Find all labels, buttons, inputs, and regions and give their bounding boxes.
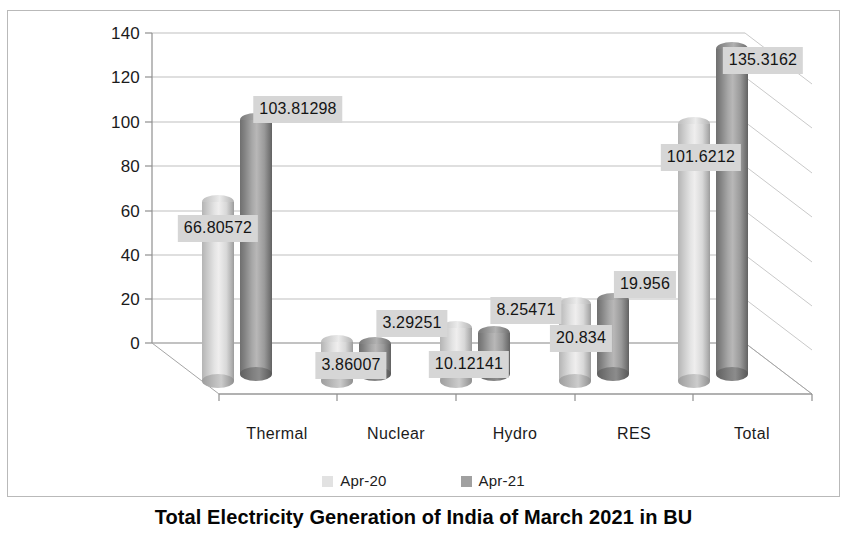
y-tick-140: 140: [96, 25, 140, 42]
bar-foot: [716, 367, 748, 381]
y-tick-80: 80: [96, 158, 140, 175]
x-tick-total: Total: [734, 425, 770, 443]
x-tick-thermal: Thermal: [246, 425, 307, 443]
legend-label-apr-21: Apr-21: [479, 473, 525, 489]
bar-body: [716, 49, 748, 374]
data-label-thermal-apr-21: 103.81298: [253, 96, 342, 123]
y-tick-120: 120: [96, 69, 140, 86]
data-label-thermal-apr-20: 66.80572: [178, 215, 258, 242]
y-tick-0: 0: [96, 335, 140, 352]
legend-item-apr-20[interactable]: Apr-20: [322, 473, 386, 489]
data-label-nuclear-apr-20: 3.86007: [315, 352, 386, 379]
legend-item-apr-21[interactable]: Apr-21: [461, 473, 525, 489]
data-label-hydro-apr-21: 8.25471: [490, 297, 561, 324]
bar-total-apr-21[interactable]: [716, 42, 748, 381]
legend-swatch-icon-apr-20: [322, 476, 333, 487]
data-label-res-apr-20: 20.834: [550, 325, 612, 352]
chart-legend: Apr-20 Apr-21: [0, 470, 847, 492]
data-label-nuclear-apr-21: 3.29251: [376, 310, 447, 337]
chart-plot-area: 140 120 100 80 60 40 20 0: [0, 0, 847, 545]
legend-label-apr-20: Apr-20: [340, 473, 386, 489]
bar-foot: [202, 374, 234, 388]
bar-foot: [597, 367, 629, 381]
y-tick-40: 40: [96, 247, 140, 264]
y-tick-20: 20: [96, 291, 140, 308]
y-tick-60: 60: [96, 203, 140, 220]
y-axis-labels: 140 120 100 80 60 40 20 0: [96, 0, 140, 545]
bar-body: [240, 120, 272, 374]
bar-foot: [678, 374, 710, 388]
y-axis-ticks: [145, 33, 152, 343]
chart-title: Total Electricity Generation of India of…: [0, 506, 847, 529]
x-tick-nuclear: Nuclear: [367, 425, 425, 443]
x-tick-hydro: Hydro: [493, 425, 538, 443]
data-label-res-apr-21: 19.956: [614, 271, 676, 298]
data-label-total-apr-20: 101.6212: [661, 144, 741, 171]
data-label-hydro-apr-20: 10.12141: [429, 351, 509, 378]
x-axis-ticks: [219, 394, 812, 401]
y-tick-100: 100: [96, 114, 140, 131]
x-axis-labels: Thermal Nuclear Hydro RES Total: [0, 425, 847, 451]
depth-gridlines: [745, 33, 812, 394]
bar-foot: [240, 367, 272, 381]
x-tick-res: RES: [617, 425, 651, 443]
data-label-total-apr-21: 135.3162: [723, 47, 803, 74]
bar-foot: [559, 374, 591, 388]
bar-thermal-apr-21[interactable]: [240, 113, 272, 381]
legend-swatch-icon-apr-21: [461, 476, 472, 487]
